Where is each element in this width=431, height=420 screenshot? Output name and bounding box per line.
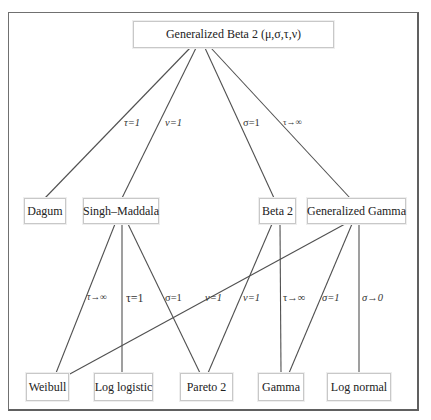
- edge-root-gen-gamma: [211, 48, 350, 198]
- node-gamma: Gamma: [258, 373, 304, 401]
- node-label: Gamma: [262, 380, 300, 395]
- node-generalized-beta-2: Generalized Beta 2 (μ,σ,τ,ν): [133, 21, 334, 48]
- edge-label-gg-log-normal: σ→0: [362, 292, 383, 303]
- node-label: Weibull: [29, 380, 67, 395]
- node-label: Pareto 2: [187, 380, 227, 395]
- node-log-normal: Log normal: [327, 373, 391, 401]
- edge-label-gg-weibull: ν=1: [205, 292, 222, 303]
- node-label: Log logistic: [95, 380, 153, 395]
- edge-label-gg-gamma: σ=1: [322, 292, 340, 303]
- edge-label-beta2-gamma: τ→∞: [283, 292, 305, 303]
- edge-label-sm-log-logistic: τ=1: [126, 291, 144, 306]
- node-singh-maddala: Singh–Maddala: [83, 198, 159, 224]
- node-label: Dagum: [27, 204, 62, 219]
- node-weibull: Weibull: [26, 373, 69, 401]
- edge-root-beta2: [205, 48, 274, 198]
- node-pareto-2: Pareto 2: [180, 373, 233, 401]
- edge-label-root-gen-gamma: τ→∞: [283, 117, 302, 127]
- edge-label-sm-pareto2: σ=1: [165, 292, 182, 303]
- node-label: Generalized Beta 2 (μ,σ,τ,ν): [166, 27, 301, 42]
- node-label: Generalized Gamma: [307, 204, 406, 219]
- edge-label-root-singh-maddala: ν=1: [165, 117, 182, 128]
- node-beta-2: Beta 2: [259, 198, 296, 224]
- node-log-logistic: Log logistic: [94, 373, 153, 401]
- edge-label-root-beta2: σ=1: [243, 117, 260, 128]
- node-label: Beta 2: [262, 204, 293, 219]
- node-label: Singh–Maddala: [83, 204, 159, 219]
- edge-label-beta2-pareto2: ν=1: [243, 292, 260, 303]
- node-generalized-gamma: Generalized Gamma: [307, 198, 406, 224]
- node-label: Log normal: [331, 380, 387, 395]
- node-dagum: Dagum: [24, 198, 66, 224]
- edge-beta2-gamma: [280, 224, 281, 373]
- edge-label-sm-weibull: τ→∞: [87, 292, 107, 302]
- edge-label-root-dagum: τ=1: [124, 117, 140, 128]
